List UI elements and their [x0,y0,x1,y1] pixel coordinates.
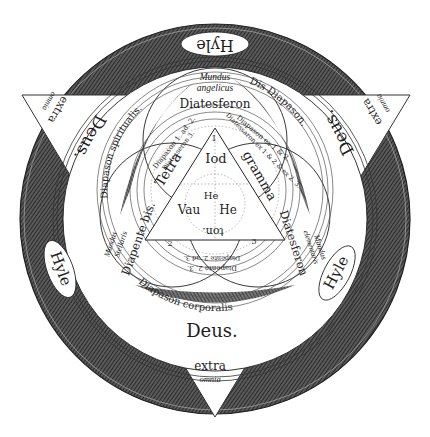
arc-bottom-inner: Diapente 2. ad 3. [184,254,240,262]
num-1: 1 [211,134,216,143]
hyle-top-label: Hyle [196,36,234,55]
deus-bottom: Deus. [186,320,238,341]
iod-label: Iod [205,151,226,166]
he-center-label: He [204,190,219,201]
omnia-bottom: omnia [199,374,220,384]
mundus-top: Mundus [199,72,231,82]
arc-bottom-outer: Diapente 2. 3. [187,264,237,272]
num-3: 3 [251,237,256,246]
diatesferon-top: Diatesferon [180,97,251,111]
angelicus-label: angelicus [197,83,234,93]
extra-bottom: extra [194,359,226,373]
vau-label: Vau [177,203,201,217]
he-right-label: He [219,203,237,217]
diagram-canvas: Hyle Hyle Hyle Deus. extra omnia Deus. e… [0,0,430,437]
cosmic-diagram: Hyle Hyle Hyle Deus. extra omnia Deus. e… [0,0,430,437]
ton-label: ton. [202,225,224,238]
hyle-top: Hyle [181,32,249,56]
num-2: 2 [167,239,172,248]
